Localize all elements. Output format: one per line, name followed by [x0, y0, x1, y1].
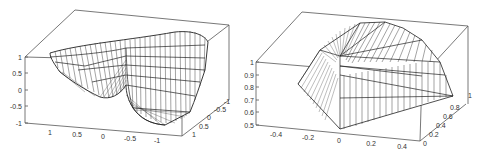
right-surface-mesh [298, 22, 453, 129]
right-z-tick: 0.6 [244, 109, 254, 116]
right-y-tick: 1 [468, 92, 472, 99]
right-y-tick: 0.6 [443, 113, 453, 120]
left-x-tick: 1 [48, 129, 52, 136]
left-y-tick: 0 [207, 114, 211, 121]
left-z-tick: 0.5 [12, 70, 22, 77]
right-z-axis: 1 0.9 0.8 0.7 0.6 0.5 [244, 59, 259, 129]
right-z-tick: 1 [250, 59, 254, 66]
left-x-tick: -0.5 [124, 135, 136, 142]
right-x-tick: -0.2 [302, 134, 314, 141]
left-z-tick: 0 [18, 87, 22, 94]
left-surface-mesh [50, 31, 208, 125]
right-plot-canvas: 1 0.9 0.8 0.7 0.6 0.5 -0.4 -0.2 0 0.2 0.… [240, 0, 481, 153]
right-y-tick: 0 [423, 140, 427, 147]
right-z-tick: 0.8 [244, 84, 254, 91]
left-x-axis: 1 0.5 0 -0.5 -1 [48, 129, 160, 144]
right-y-tick: 0.2 [429, 131, 439, 138]
right-x-axis: -0.4 -0.2 0 0.2 0.4 [270, 131, 407, 150]
left-x-tick: 0 [101, 133, 105, 140]
right-x-tick: 0 [337, 137, 341, 144]
left-z-tick: 1 [18, 54, 22, 61]
right-z-tick: 0.5 [244, 122, 254, 129]
left-3d-plot: 1 0.5 0 -0.5 -1 1 0.5 0 -0.5 -1 1 0.5 0 … [0, 0, 240, 153]
right-y-tick: 0.4 [436, 122, 446, 129]
left-x-tick: 0.5 [72, 131, 82, 138]
right-z-tick: 0.9 [244, 72, 254, 79]
left-x-tick: -1 [154, 137, 160, 144]
left-y-tick: -0.5 [214, 106, 226, 113]
left-y-tick: -1 [224, 98, 230, 105]
right-3d-plot: 1 0.9 0.8 0.7 0.6 0.5 -0.4 -0.2 0 0.2 0.… [240, 0, 481, 153]
right-x-tick: 0.4 [397, 143, 407, 150]
right-z-tick: 0.7 [244, 97, 254, 104]
right-x-tick: -0.4 [270, 131, 282, 138]
left-z-tick: -0.5 [10, 103, 22, 110]
right-y-tick: 0.8 [450, 104, 460, 111]
right-x-tick: 0.2 [366, 140, 376, 147]
left-plot-canvas: 1 0.5 0 -0.5 -1 1 0.5 0 -0.5 -1 1 0.5 0 … [0, 0, 240, 153]
left-y-tick: 1 [192, 131, 196, 138]
left-z-tick: -1 [16, 120, 22, 127]
left-y-tick: 0.5 [199, 123, 209, 130]
left-y-axis: 1 0.5 0 -0.5 -1 [192, 98, 230, 138]
